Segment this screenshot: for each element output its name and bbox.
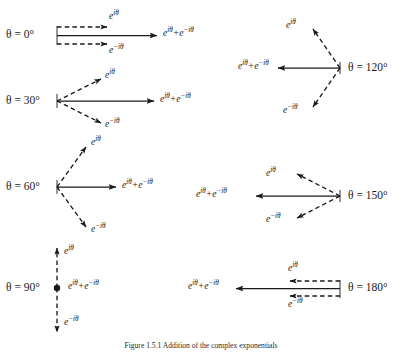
panel-theta-60 (57, 147, 116, 227)
e-exponent: iθ (292, 261, 298, 269)
component-label-e-plus-theta-180: eiθ (288, 264, 298, 274)
resultant-label-theta-30: eiθ+e−iθ (160, 95, 191, 105)
e-exponent: iθ (95, 135, 101, 143)
e-exponent: −iθ (88, 279, 98, 287)
angle-label-theta-0: θ = 0° (6, 29, 34, 41)
resultant-label-theta-0: eiθ+e−iθ (163, 29, 194, 39)
panel-theta-30 (57, 79, 154, 123)
angle-label-theta-120: θ = 120° (348, 62, 388, 74)
component-arrow-e-minus (57, 101, 101, 123)
component-arrow-e-plus (57, 79, 101, 101)
e-exponent: −iθ (208, 279, 218, 287)
plus-e: +e (173, 28, 184, 38)
component-arrow-e-minus (57, 187, 86, 227)
panel-theta-0 (57, 26, 157, 45)
e-exponent: −iθ (109, 117, 119, 125)
component-label-e-minus-theta-180: e−iθ (288, 300, 303, 310)
angle-label-theta-90: θ = 90° (6, 282, 40, 294)
e-exponent: iθ (290, 18, 296, 26)
resultant-label-theta-90: eiθ+e−iθ (68, 282, 99, 292)
component-label-e-plus-theta-30: eiθ (105, 71, 115, 81)
e-exponent: −iθ (258, 59, 268, 67)
e-exponent: −iθ (180, 92, 190, 100)
resultant-label-theta-120: eiθ+e−iθ (238, 62, 269, 72)
component-arrow-e-minus (313, 68, 340, 107)
panel-theta-90 (54, 248, 60, 332)
component-arrow-e-plus (297, 174, 340, 196)
figure-caption: Figure 1.5.1 Addition of the complex exp… (0, 341, 402, 355)
component-label-e-minus-theta-60: e−iθ (91, 225, 106, 235)
figure-root: θ = 0° eiθ e−iθ eiθ+e−iθ θ = 30° eiθ e−i… (0, 0, 402, 355)
component-label-e-minus-theta-30: e−iθ (105, 120, 120, 130)
panel-theta-180 (236, 280, 340, 298)
plus-e: +e (198, 281, 209, 291)
component-arrow-e-plus (57, 147, 86, 187)
angle-label-theta-60: θ = 60° (6, 181, 40, 193)
resultant-label-theta-60: eiθ+e−iθ (122, 181, 153, 191)
e-exponent: iθ (68, 244, 74, 252)
e-exponent: −iθ (95, 222, 105, 230)
component-label-e-plus-theta-0: eiθ (109, 12, 119, 22)
plus-e: +e (170, 94, 181, 104)
plus-e: +e (132, 180, 143, 190)
e-exponent: iθ (270, 166, 276, 174)
e-exponent: −iθ (142, 178, 152, 186)
vector-diagram-canvas (0, 0, 402, 355)
e-exponent: −iθ (270, 212, 280, 220)
e-exponent: iθ (109, 68, 115, 76)
component-label-e-minus-theta-90: e−iθ (64, 318, 79, 328)
e-exponent: −iθ (68, 315, 78, 323)
component-label-e-plus-theta-120: eiθ (286, 21, 296, 31)
panel-theta-120 (278, 29, 340, 107)
component-label-e-minus-theta-0: e−iθ (109, 46, 124, 56)
component-label-e-plus-theta-90: eiθ (64, 247, 74, 257)
component-label-e-minus-theta-120: e−iθ (283, 106, 298, 116)
panel-theta-150 (256, 174, 340, 218)
plus-e: +e (78, 281, 89, 291)
resultant-label-theta-150: eiθ+e−iθ (196, 190, 227, 200)
component-label-e-plus-theta-60: eiθ (91, 138, 101, 148)
plus-e: +e (206, 189, 217, 199)
e-exponent: −iθ (183, 26, 193, 34)
resultant-point (54, 285, 60, 291)
e-exponent: −iθ (113, 43, 123, 51)
component-label-e-plus-theta-150: eiθ (266, 169, 276, 179)
component-label-e-minus-theta-150: e−iθ (266, 215, 281, 225)
angle-label-theta-150: θ = 150° (348, 190, 388, 202)
e-exponent: −iθ (292, 297, 302, 305)
angle-label-theta-30: θ = 30° (6, 95, 40, 107)
e-exponent: −iθ (287, 103, 297, 111)
e-exponent: iθ (113, 9, 119, 17)
component-arrow-e-minus (297, 196, 340, 218)
component-arrow-e-plus (313, 29, 340, 68)
plus-e: +e (248, 61, 259, 71)
e-exponent: −iθ (216, 187, 226, 195)
angle-label-theta-180: θ = 180° (348, 282, 388, 294)
resultant-label-theta-180: eiθ+e−iθ (188, 282, 219, 292)
